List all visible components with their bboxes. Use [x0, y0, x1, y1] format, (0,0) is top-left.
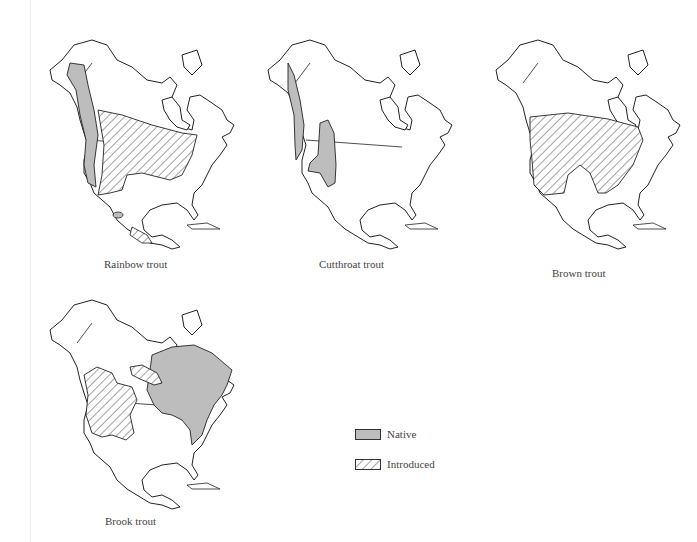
map-brook-trout — [22, 275, 242, 515]
caption-brook-trout: Brook trout — [105, 515, 156, 527]
legend-introduced-label: Introduced — [387, 458, 435, 470]
caption-cutthroat-trout: Cutthroat trout — [319, 258, 384, 270]
introduced-swatch — [355, 459, 381, 470]
caption-brown-trout: Brown trout — [552, 267, 605, 279]
legend-introduced: Introduced — [355, 458, 435, 470]
map-brown-trout — [468, 15, 688, 255]
map-rainbow-trout — [22, 15, 242, 255]
caption-rainbow-trout: Rainbow trout — [104, 258, 167, 270]
legend-native: Native — [355, 428, 416, 440]
native-swatch — [355, 429, 381, 440]
map-cutthroat-trout — [240, 15, 460, 255]
legend-native-label: Native — [387, 428, 416, 440]
